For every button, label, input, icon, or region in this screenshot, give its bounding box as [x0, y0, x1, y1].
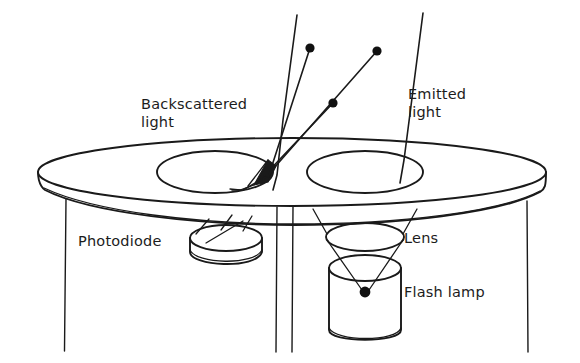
diagram-labels: Backscattered light Emitted light Photod…	[78, 86, 485, 300]
left-aperture-hole	[157, 151, 273, 193]
scatter-dot-b	[372, 46, 381, 55]
right-aperture-hole	[307, 151, 423, 193]
optical-setup-diagram: Backscattered light Emitted light Photod…	[0, 0, 580, 363]
label-backscattered-light-line2: light	[141, 114, 174, 130]
table-slab	[38, 138, 546, 225]
flash-lamp-source-dot	[360, 287, 371, 298]
flash-lamp-top-face	[329, 255, 401, 281]
scatter-dot-c	[328, 98, 337, 107]
flash-lamp-assembly	[329, 255, 401, 340]
lens-cone-lower-right	[369, 240, 403, 290]
label-lens: Lens	[404, 230, 438, 246]
label-backscattered-light-line1: Backscattered	[141, 96, 247, 112]
table-leg-right	[527, 201, 528, 352]
label-emitted-light-line2: light	[408, 104, 441, 120]
table-leg-middle-a	[276, 207, 277, 352]
photodiode-assembly	[190, 215, 262, 264]
diagram-canvas: Backscattered light Emitted light Photod…	[0, 0, 580, 363]
label-emitted-light-line1: Emitted	[408, 86, 466, 102]
table-apertures	[157, 151, 423, 193]
flash-lamp-body	[329, 268, 401, 340]
scatter-dot-a	[305, 43, 314, 52]
label-flash-lamp: Flash lamp	[404, 284, 485, 300]
backscatter-ray-c	[264, 103, 333, 176]
table-legs	[65, 199, 529, 352]
lens-cone-lower-left	[327, 240, 362, 290]
photodiode-top-face	[190, 225, 262, 251]
table-leg-middle-b	[292, 207, 293, 352]
table-slab-side	[38, 172, 546, 225]
lens-cone-upper-left	[313, 209, 327, 234]
label-photodiode: Photodiode	[78, 233, 162, 249]
light-rays	[232, 13, 423, 190]
lens-element	[326, 223, 404, 251]
table-leg-left	[65, 199, 67, 351]
backscatter-ray-a	[268, 48, 310, 178]
